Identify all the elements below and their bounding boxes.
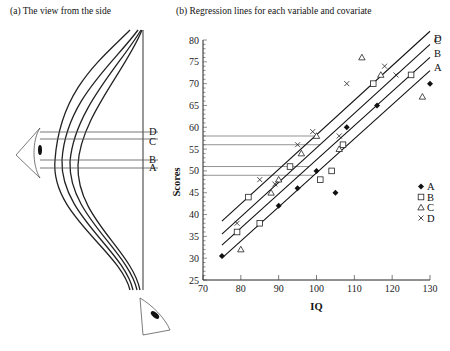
y-tick-label: 40 [189, 209, 199, 220]
eye-bottom-icon [140, 298, 170, 335]
triangle-marker [268, 190, 274, 196]
legend: ABCD [418, 181, 435, 224]
legend-label-d: D [427, 213, 435, 224]
square-marker [340, 142, 346, 148]
triangle-marker [419, 94, 425, 100]
square-marker [234, 229, 240, 235]
x-marker [393, 72, 398, 77]
regression-line-c [222, 44, 430, 234]
y-tick-label: 65 [189, 100, 199, 111]
diamond-marker [427, 81, 433, 87]
x-marker [257, 177, 262, 182]
legend-label-b: B [427, 192, 434, 203]
x-tick-label: 80 [236, 283, 246, 294]
side-labels: D C B A [149, 126, 157, 173]
regression-label-b: B [434, 48, 441, 59]
y-tick-label: 35 [189, 231, 199, 242]
x-tick-label: 100 [309, 283, 324, 294]
y-tick-label: 45 [189, 187, 199, 198]
y-tick-label: 80 [189, 35, 199, 46]
x-marker [419, 216, 424, 221]
x-axis-title: IQ [310, 301, 322, 312]
eye-side-icon [16, 128, 42, 178]
y-tick-label: 55 [189, 144, 199, 155]
side-label-c: C [149, 136, 156, 147]
square-marker [246, 194, 252, 200]
diamond-marker [418, 184, 424, 190]
y-tick-label: 60 [189, 122, 199, 133]
diamond-marker [219, 253, 225, 259]
square-marker [370, 81, 376, 87]
x-marker [344, 81, 349, 86]
y-tick-label: 50 [189, 165, 199, 176]
y-tick-label: 75 [189, 56, 199, 67]
regression-label-a: A [434, 62, 442, 73]
x-marker [337, 134, 342, 139]
x-tick-label: 120 [385, 283, 400, 294]
panel-b-chart: 2530354045505560657075807080901001101201… [171, 31, 442, 312]
square-marker [418, 194, 424, 200]
x-tick-label: 110 [347, 283, 362, 294]
square-marker [408, 72, 414, 78]
triangle-marker [238, 246, 244, 252]
y-axis-title: Scores [171, 168, 182, 197]
y-tick-label: 30 [189, 253, 199, 264]
diamond-marker [332, 190, 338, 196]
side-label-a: A [149, 162, 157, 173]
square-marker [317, 177, 323, 183]
y-tick-label: 70 [189, 78, 199, 89]
x-marker [382, 64, 387, 69]
regression-label-d: D [434, 33, 442, 44]
regression-line-a [222, 71, 430, 259]
diamond-marker [314, 168, 320, 174]
x-tick-label: 70 [198, 283, 208, 294]
diamond-marker [276, 203, 282, 209]
legend-label-c: C [427, 202, 434, 213]
panel-a-side-view: D C B A [16, 30, 170, 335]
square-marker [257, 220, 263, 226]
regression-line-d [222, 31, 430, 221]
square-marker [287, 164, 293, 170]
diamond-marker [344, 124, 350, 130]
legend-label-a: A [427, 181, 435, 192]
square-marker [329, 168, 335, 174]
triangle-marker [418, 204, 424, 210]
x-tick-label: 130 [423, 283, 438, 294]
x-marker [310, 129, 315, 134]
diamond-marker [295, 185, 301, 191]
x-tick-label: 90 [274, 283, 284, 294]
triangle-marker [359, 54, 365, 60]
regression-line-b [222, 57, 430, 245]
triangle-marker [275, 176, 281, 182]
x-marker [235, 221, 240, 226]
